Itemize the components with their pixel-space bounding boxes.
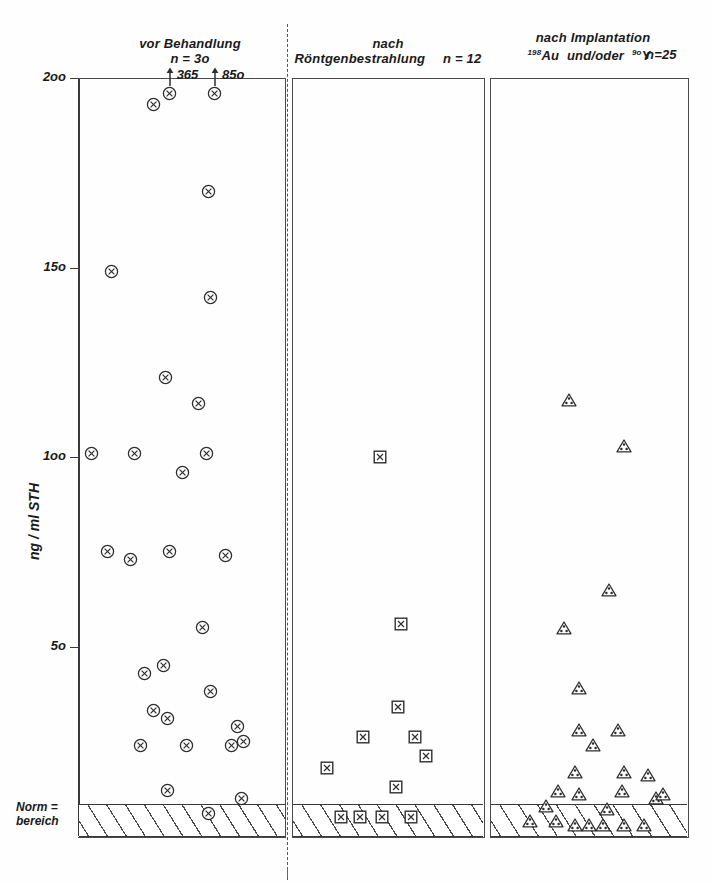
data-point bbox=[353, 810, 367, 824]
data-point bbox=[158, 370, 173, 385]
data-point bbox=[616, 765, 632, 779]
data-point bbox=[571, 681, 587, 695]
panel-box-2 bbox=[292, 78, 485, 838]
data-point bbox=[104, 264, 119, 279]
data-point bbox=[373, 450, 387, 464]
data-point bbox=[218, 548, 233, 563]
data-point bbox=[548, 814, 564, 828]
data-point bbox=[538, 799, 554, 813]
data-point bbox=[550, 784, 566, 798]
panel-title-implantation-line1: nach Implantation bbox=[492, 30, 694, 45]
data-point bbox=[199, 446, 214, 461]
data-point bbox=[614, 784, 630, 798]
y-tick-label-200: 2oo bbox=[10, 69, 66, 84]
data-point bbox=[595, 818, 611, 832]
panel-header-vor-behandlung: vor Behandlung n = 3o bbox=[100, 36, 280, 66]
panel-n-vor-behandlung: n = 3o bbox=[100, 51, 280, 66]
data-point bbox=[334, 810, 348, 824]
figure-root: ng / ml STH 2oo15o1oo5o Norm = bereich v… bbox=[0, 0, 712, 883]
panel-title-nach-line2: Röntgenbestrahlung n = 12 bbox=[288, 51, 488, 66]
data-point bbox=[655, 787, 671, 801]
data-point bbox=[601, 583, 617, 597]
data-point bbox=[522, 814, 538, 828]
data-point bbox=[585, 738, 601, 752]
data-point bbox=[123, 552, 138, 567]
data-point bbox=[391, 700, 405, 714]
panel-box-3 bbox=[490, 78, 689, 838]
panel-header-nach-roentgenbestrahlung: nach Röntgenbestrahlung n = 12 bbox=[288, 36, 488, 66]
data-point bbox=[408, 730, 422, 744]
panel-box-1 bbox=[78, 78, 286, 838]
panel-title-vor-behandlung: vor Behandlung bbox=[100, 36, 280, 51]
data-point bbox=[419, 749, 433, 763]
panel-n-nach-roentgen: n = 12 bbox=[443, 51, 481, 66]
data-point bbox=[616, 818, 632, 832]
data-point bbox=[160, 783, 175, 798]
norm-band-panel-1 bbox=[79, 804, 285, 837]
data-point bbox=[394, 617, 408, 631]
y-tick-label-50: 5o bbox=[10, 638, 66, 653]
data-point bbox=[389, 780, 403, 794]
panel-n-implantation: n=25 bbox=[646, 47, 677, 62]
data-point bbox=[230, 719, 245, 734]
data-point bbox=[201, 806, 216, 821]
divider-dot bbox=[287, 868, 288, 878]
data-point bbox=[201, 184, 216, 199]
data-point bbox=[156, 658, 171, 673]
data-point bbox=[375, 810, 389, 824]
data-point bbox=[175, 465, 190, 480]
data-point bbox=[356, 730, 370, 744]
norm-range-label-line2: bereich bbox=[16, 814, 59, 828]
data-point bbox=[133, 738, 148, 753]
data-point bbox=[195, 620, 210, 635]
data-point bbox=[127, 446, 142, 461]
und-oder-text: und/oder bbox=[567, 48, 624, 63]
isotope-90-sup: 9o bbox=[632, 48, 642, 57]
data-point bbox=[146, 97, 161, 112]
data-point bbox=[610, 723, 626, 737]
panel-title-nach-line1: nach bbox=[288, 36, 488, 51]
data-point bbox=[556, 621, 572, 635]
offscale-arrow-icon bbox=[165, 67, 175, 91]
offscale-value-label: 365 bbox=[177, 67, 199, 82]
data-point bbox=[137, 666, 152, 681]
data-point bbox=[191, 396, 206, 411]
data-point bbox=[146, 703, 161, 718]
data-point bbox=[616, 439, 632, 453]
panel-title-implantation-text: nach Implantation bbox=[536, 30, 651, 45]
offscale-value-label: 85o bbox=[222, 67, 244, 82]
panel-divider-line bbox=[287, 24, 288, 880]
data-point bbox=[160, 711, 175, 726]
data-point bbox=[404, 810, 418, 824]
data-point bbox=[84, 446, 99, 461]
data-point bbox=[599, 802, 615, 816]
panel-title-nach-text: Röntgenbestrahlung bbox=[295, 51, 426, 66]
data-point bbox=[179, 738, 194, 753]
data-point bbox=[571, 723, 587, 737]
y-tick-label-100: 1oo bbox=[10, 448, 66, 463]
data-point bbox=[203, 290, 218, 305]
y-axis-label: ng / ml STH bbox=[26, 483, 42, 560]
data-point bbox=[162, 544, 177, 559]
data-point bbox=[100, 544, 115, 559]
y-tick-label-150: 15o bbox=[10, 259, 66, 274]
data-point bbox=[561, 393, 577, 407]
data-point bbox=[203, 684, 218, 699]
norm-range-label: Norm = bereich bbox=[16, 800, 59, 828]
isotope-au: Au bbox=[541, 48, 559, 63]
data-point bbox=[320, 761, 334, 775]
offscale-arrow-icon bbox=[210, 67, 220, 91]
data-point bbox=[636, 818, 652, 832]
norm-range-label-line1: Norm = bbox=[16, 800, 59, 814]
data-point bbox=[571, 787, 587, 801]
data-point bbox=[236, 734, 251, 749]
data-point bbox=[640, 768, 656, 782]
data-point bbox=[234, 791, 249, 806]
data-point bbox=[567, 765, 583, 779]
isotope-198-sup: 198 bbox=[527, 48, 541, 57]
